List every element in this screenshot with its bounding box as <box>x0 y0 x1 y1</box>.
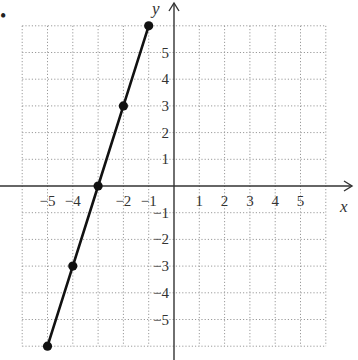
x-tick-label: 2 <box>221 193 229 209</box>
y-tick-label: 4 <box>162 71 170 87</box>
data-point <box>119 101 128 110</box>
data-point <box>68 262 77 271</box>
y-tick-label: −4 <box>153 285 169 301</box>
x-tick-label: 5 <box>297 193 305 209</box>
y-tick-label: 2 <box>162 125 170 141</box>
x-tick-label: −2 <box>115 193 131 209</box>
coordinate-plane: • −5−4−2−11234554321−1−2−3−4−5 x y <box>0 0 358 360</box>
list-bullet: • <box>0 6 6 26</box>
axes <box>0 3 352 360</box>
x-tick-label: 1 <box>196 193 204 209</box>
x-axis-label: x <box>339 197 348 216</box>
x-tick-label: 3 <box>246 193 254 209</box>
y-axis-label: y <box>150 0 160 18</box>
data-point <box>43 342 52 351</box>
data-point <box>144 21 153 30</box>
x-tick-label: 4 <box>271 193 279 209</box>
y-tick-label: −2 <box>153 231 169 247</box>
x-tick-label: −4 <box>65 193 81 209</box>
data-point <box>94 181 103 190</box>
y-tick-label: −1 <box>153 205 169 221</box>
x-tick-label: −5 <box>40 193 56 209</box>
y-tick-label: 5 <box>162 45 170 61</box>
y-tick-label: 1 <box>162 151 170 167</box>
y-tick-label: −5 <box>153 312 169 328</box>
y-tick-label: −3 <box>153 258 169 274</box>
y-tick-label: 3 <box>162 98 170 114</box>
